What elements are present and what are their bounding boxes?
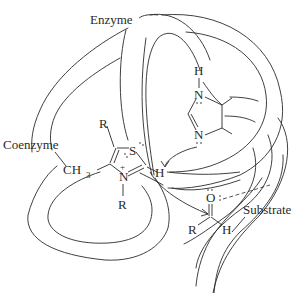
enzyme-ribbon <box>28 14 288 293</box>
enzyme-leader-line <box>139 15 158 18</box>
atom-s: S <box>129 143 136 158</box>
label-coenzyme: Coenzyme <box>3 137 59 152</box>
methyl-subscript: 3 <box>86 170 91 180</box>
lone-pair-n1 <box>196 102 202 104</box>
label-enzyme: Enzyme <box>90 12 133 27</box>
charge-plus: + <box>120 162 125 172</box>
atom-h-substrate: H <box>222 222 231 237</box>
atom-r-top: R <box>99 116 108 131</box>
methyl-ch: CH <box>63 162 81 177</box>
atom-r-bottom: R <box>118 197 127 212</box>
atom-r-substrate: R <box>188 222 197 237</box>
arrow-n3-to-h <box>165 147 197 166</box>
enzyme-coenzyme-diagram: Enzyme Coenzyme Substrate R <box>0 0 308 293</box>
atom-n1: N <box>194 87 204 102</box>
lone-pair-n3 <box>196 142 202 144</box>
atom-o: O <box>206 190 215 205</box>
atom-h-his: H <box>194 63 203 78</box>
h-strand <box>167 172 240 174</box>
atom-h-acidic: H <box>155 165 164 180</box>
label-substrate: Substrate <box>243 202 292 217</box>
atom-n3: N <box>194 127 204 142</box>
bond-c-r <box>198 217 210 225</box>
